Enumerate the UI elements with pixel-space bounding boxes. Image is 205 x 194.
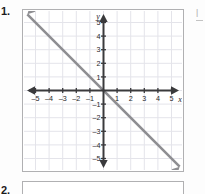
next-question-box: [22, 181, 184, 194]
x-tick-label: 2: [129, 94, 133, 103]
coordinate-plane-svg: –5–4–3–2–11234554321–1–2–3–4–5xy: [23, 10, 183, 171]
y-tick-label: 2: [97, 59, 101, 68]
x-tick-label: –5: [32, 94, 40, 103]
y-tick-label: 3: [97, 45, 101, 54]
edge-fragment-text: l: [196, 8, 198, 19]
y-tick-label: –5: [93, 154, 101, 163]
y-axis-arrow-up: [99, 14, 107, 22]
edge-fragment-underline: [196, 20, 203, 21]
question-number: 1.: [1, 5, 10, 17]
next-question-number: 2.: [1, 184, 10, 194]
y-tick-label: –4: [93, 141, 101, 150]
y-tick-label: –1: [93, 100, 101, 109]
coordinate-graph: –5–4–3–2–11234554321–1–2–3–4–5xy: [22, 9, 184, 172]
y-axis-label: y: [95, 12, 100, 21]
line-arrowhead-upper-left: [27, 10, 35, 14]
x-tick-label: –3: [59, 94, 67, 103]
x-tick-label: 1: [115, 94, 119, 103]
y-tick-label: 1: [97, 73, 101, 82]
x-tick-label: 3: [142, 94, 146, 103]
y-axis-arrow-down: [99, 160, 107, 168]
x-axis-label: x: [177, 95, 182, 104]
x-tick-label: 4: [156, 94, 160, 103]
y-tick-label: –3: [93, 127, 101, 136]
y-tick-label: –2: [93, 113, 101, 122]
x-tick-label: –4: [45, 94, 53, 103]
x-tick-label: –2: [72, 94, 80, 103]
worksheet-page: 1. l –5–4–3–2–11234554321–1–2–3–4–5xy 2.: [0, 0, 205, 194]
y-tick-label: 4: [97, 32, 101, 41]
x-tick-label: 5: [170, 94, 174, 103]
line-arrowhead-lower-right: [172, 167, 180, 171]
edge-fragment: l: [196, 8, 203, 21]
